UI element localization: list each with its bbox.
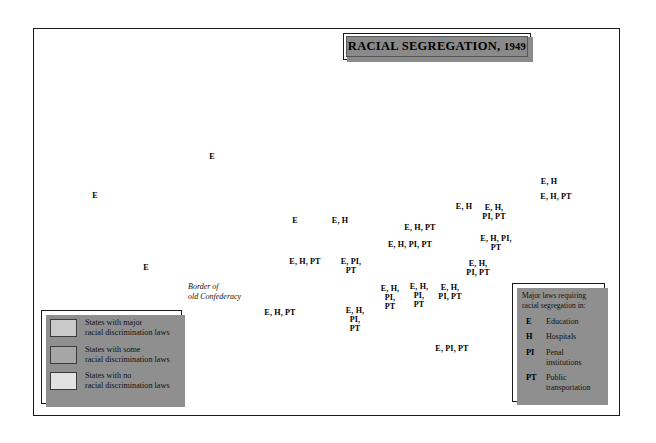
state-label-nevada: E xyxy=(92,191,98,200)
abbr-code-public-transportation: PT xyxy=(522,373,546,382)
abbr-code-hospitals: H xyxy=(522,332,546,341)
state-label-arizona: E xyxy=(143,263,149,272)
state-label-kansas: E xyxy=(292,216,298,225)
abbr-code-penal-institutions: PI xyxy=(522,348,546,357)
state-label-alabama: E, H, PI, PT xyxy=(410,282,429,309)
title-main: RACIAL SEGREGATION, xyxy=(348,39,504,53)
title-year: 1949 xyxy=(504,41,526,52)
state-label-louisiana: E, H, PI, PT xyxy=(346,306,365,333)
abbr-code-education: E xyxy=(522,317,546,326)
legend-abbreviation-key: Major laws requiring racial segregation … xyxy=(512,283,605,402)
legend-label-some: States with some racial discrimination l… xyxy=(85,345,170,366)
page-title: RACIAL SEGREGATION, 1949 xyxy=(348,39,526,54)
abbr-row-penal-institutions: PI Penal institutions xyxy=(522,348,599,367)
abbr-row-education: E Education xyxy=(522,317,599,327)
state-label-maryland: E, H, PT xyxy=(540,192,571,201)
state-label-mississippi: E, H, PI, PT xyxy=(381,284,400,311)
abbr-desc-education: Education xyxy=(546,317,578,327)
abbr-desc-penal-institutions: Penal institutions xyxy=(546,348,582,367)
map-title-inner-border: RACIAL SEGREGATION, 1949 xyxy=(346,36,528,57)
map-page: .st { stroke: #3d3d3d; stroke-width: 0.9… xyxy=(0,0,656,443)
legend-swatch-major-icon xyxy=(50,319,77,337)
abbr-row-public-transportation: PT Public transportation xyxy=(522,373,599,392)
state-label-north-carolina: E, H, PI, PT xyxy=(480,234,511,252)
state-label-delaware: E, H xyxy=(541,177,557,186)
map-title-box: RACIAL SEGREGATION, 1949 xyxy=(343,33,531,60)
legend-abbr-heading: Major laws requiring racial segregation … xyxy=(522,291,599,311)
legend-row-none: States with no racial discrimination law… xyxy=(50,371,175,392)
abbr-row-hospitals: H Hospitals xyxy=(522,332,599,342)
state-label-arkansas: E, PI, PT xyxy=(341,257,361,275)
legend-label-major: States with major racial discrimination … xyxy=(85,318,170,339)
confederacy-border-annotation: Border of old Confederacy xyxy=(188,282,241,301)
state-label-missouri: E, H xyxy=(332,216,348,225)
state-label-west-virginia: E, H xyxy=(456,202,472,211)
abbr-desc-hospitals: Hospitals xyxy=(546,332,576,342)
legend-row-some: States with some racial discrimination l… xyxy=(50,345,175,366)
state-label-tennessee: E, H, PI, PT xyxy=(388,240,432,249)
legend-swatch-none-icon xyxy=(50,372,77,390)
abbr-desc-public-transportation: Public transportation xyxy=(546,373,590,392)
state-label-virginia: E, H, PI, PT xyxy=(482,203,505,221)
state-label-georgia: E, H, PI, PT xyxy=(438,283,461,301)
legend-label-none: States with no racial discrimination law… xyxy=(85,371,170,392)
legend-swatch-some-icon xyxy=(50,346,77,364)
state-label-kentucky: E, H, PT xyxy=(404,223,435,232)
state-label-oklahoma: E, H, PT xyxy=(289,257,320,266)
state-label-wyoming: E xyxy=(209,152,215,161)
state-label-florida: E, PI, PT xyxy=(435,344,468,353)
legend-discrimination-classes: States with major racial discrimination … xyxy=(41,310,182,404)
legend-row-major: States with major racial discrimination … xyxy=(50,318,175,339)
state-label-south-carolina: E, H, PI, PT xyxy=(466,259,489,277)
state-label-texas: E, H, PT xyxy=(264,308,295,317)
